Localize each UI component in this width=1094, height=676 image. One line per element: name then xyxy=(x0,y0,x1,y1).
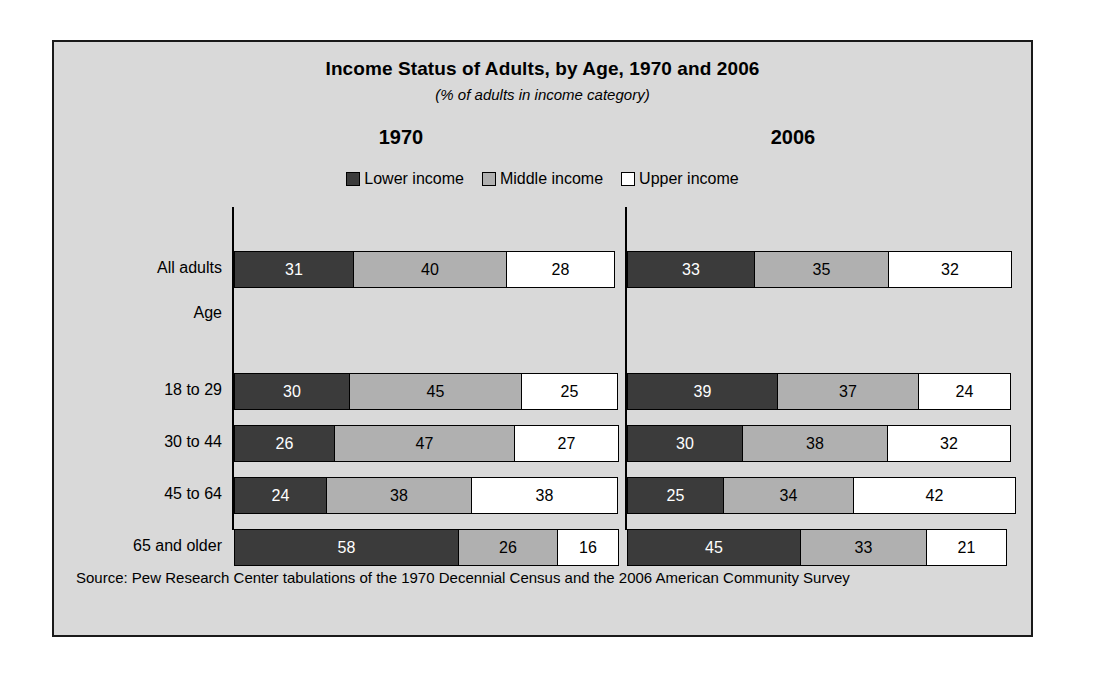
legend-item-middle-income: Middle income xyxy=(482,170,603,188)
chart-legend: Lower income Middle income Upper income xyxy=(54,170,1031,188)
bar-segment-lower-income: 25 xyxy=(627,477,724,514)
legend-swatch-middle-income-icon xyxy=(482,172,496,186)
legend-item-upper-income: Upper income xyxy=(621,170,739,188)
bar-segment-middle-income: 35 xyxy=(754,251,890,288)
bar-row-1970-all-adults: 31 40 28 xyxy=(234,251,615,288)
bar-segment-middle-income: 38 xyxy=(326,477,473,514)
bar-row-1970-65-and-older: 58 26 16 xyxy=(234,529,619,566)
bar-segment-upper-income: 42 xyxy=(853,477,1016,514)
bar-row-2006-65-and-older: 45 33 21 xyxy=(627,529,1007,566)
legend-label-upper-income: Upper income xyxy=(639,170,739,188)
bar-segment-upper-income: 24 xyxy=(918,373,1011,410)
bar-row-2006-45-to-64: 25 34 42 xyxy=(627,477,1016,514)
bar-segment-middle-income: 37 xyxy=(777,373,920,410)
chart-screenshot: Income Status of Adults, by Age, 1970 an… xyxy=(0,0,1094,676)
bar-segment-lower-income: 26 xyxy=(234,425,335,462)
bar-segment-upper-income: 32 xyxy=(888,251,1012,288)
bar-row-2006-30-to-44: 30 38 32 xyxy=(627,425,1011,462)
chart-source-note: Source: Pew Research Center tabulations … xyxy=(76,567,1006,588)
bar-segment-lower-income: 45 xyxy=(627,529,801,566)
bar-segment-lower-income: 58 xyxy=(234,529,459,566)
plot-area: All adults Age 18 to 29 30 to 44 45 to 6… xyxy=(54,207,1031,557)
bar-segment-lower-income: 30 xyxy=(234,373,350,410)
panel-header-2006: 2006 xyxy=(738,126,848,149)
bar-segment-middle-income: 33 xyxy=(800,529,928,566)
bar-segment-middle-income: 45 xyxy=(349,373,523,410)
legend-label-lower-income: Lower income xyxy=(364,170,464,188)
bar-segment-lower-income: 39 xyxy=(627,373,778,410)
row-label-65-and-older: 65 and older xyxy=(54,537,222,555)
bar-segment-upper-income: 27 xyxy=(514,425,619,462)
row-label-45-to-64: 45 to 64 xyxy=(54,485,222,503)
bar-segment-upper-income: 38 xyxy=(471,477,618,514)
legend-item-lower-income: Lower income xyxy=(346,170,464,188)
chart-figure-frame: Income Status of Adults, by Age, 1970 an… xyxy=(52,40,1033,637)
bar-row-2006-18-to-29: 39 37 24 xyxy=(627,373,1011,410)
legend-swatch-upper-income-icon xyxy=(621,172,635,186)
bar-row-1970-30-to-44: 26 47 27 xyxy=(234,425,619,462)
row-label-age-heading: Age xyxy=(54,304,222,322)
row-label-all-adults: All adults xyxy=(54,259,222,277)
panel-header-1970: 1970 xyxy=(346,126,456,149)
bar-segment-upper-income: 28 xyxy=(506,251,615,288)
legend-swatch-lower-income-icon xyxy=(346,172,360,186)
bar-segment-upper-income: 16 xyxy=(557,529,619,566)
bar-segment-upper-income: 25 xyxy=(521,373,618,410)
bar-segment-lower-income: 33 xyxy=(627,251,755,288)
bar-segment-lower-income: 30 xyxy=(627,425,743,462)
bar-segment-middle-income: 47 xyxy=(334,425,516,462)
legend-label-middle-income: Middle income xyxy=(500,170,603,188)
bar-segment-middle-income: 26 xyxy=(458,529,559,566)
row-label-30-to-44: 30 to 44 xyxy=(54,433,222,451)
chart-subtitle: (% of adults in income category) xyxy=(54,86,1031,103)
row-label-18-to-29: 18 to 29 xyxy=(54,381,222,399)
bar-segment-upper-income: 21 xyxy=(926,529,1007,566)
bar-row-1970-18-to-29: 30 45 25 xyxy=(234,373,618,410)
bar-row-1970-45-to-64: 24 38 38 xyxy=(234,477,618,514)
bar-segment-middle-income: 40 xyxy=(353,251,508,288)
bar-segment-lower-income: 31 xyxy=(234,251,354,288)
bar-segment-middle-income: 34 xyxy=(723,477,855,514)
chart-title: Income Status of Adults, by Age, 1970 an… xyxy=(54,58,1031,80)
bar-segment-lower-income: 24 xyxy=(234,477,327,514)
bar-row-2006-all-adults: 33 35 32 xyxy=(627,251,1012,288)
bar-segment-middle-income: 38 xyxy=(742,425,889,462)
bar-segment-upper-income: 32 xyxy=(887,425,1011,462)
